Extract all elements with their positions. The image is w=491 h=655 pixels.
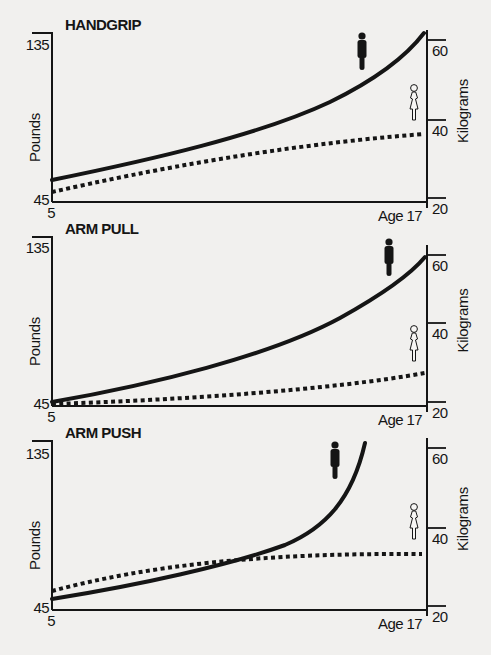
- right-tick-label: 20: [432, 404, 448, 421]
- male-series-line: [52, 257, 425, 402]
- female-figure-icon: [410, 326, 418, 361]
- x-end-label: Age 17: [378, 615, 422, 632]
- right-axis-title: Kilograms: [454, 289, 471, 353]
- x-start-label: 5: [47, 612, 55, 629]
- chart-panel-arm-pull: ARM PULL604020135455Age 17PoundsKilogram…: [26, 220, 471, 428]
- left-tick-label-top: 135: [26, 239, 49, 256]
- x-end-label: Age 17: [378, 207, 422, 224]
- right-tick-label: 60: [432, 450, 448, 467]
- female-series-line: [52, 134, 424, 192]
- female-figure-icon: [410, 504, 418, 539]
- strength-charts: HANDGRIP604020135455Age 17PoundsKilogram…: [0, 0, 491, 655]
- right-axis-title: Kilograms: [454, 487, 471, 551]
- panel-title: HANDGRIP: [65, 16, 141, 33]
- right-axis-title: Kilograms: [454, 79, 471, 143]
- male-series-line: [52, 443, 365, 599]
- left-tick-label-top: 135: [26, 36, 49, 53]
- x-end-label: Age 17: [378, 411, 422, 428]
- left-tick-label-top: 135: [26, 445, 49, 462]
- male-figure-icon: [385, 238, 394, 276]
- right-tick-label: 40: [432, 122, 448, 139]
- left-axis-title: Pounds: [26, 521, 43, 570]
- right-tick-label: 20: [432, 200, 448, 217]
- female-figure-icon: [410, 85, 418, 120]
- x-start-label: 5: [47, 204, 55, 221]
- male-figure-icon: [358, 32, 367, 70]
- right-tick-label: 40: [432, 325, 448, 342]
- female-series-line: [52, 373, 425, 404]
- chart-panel-arm-push: ARM PUSH604020135455Age 17PoundsKilogram…: [26, 424, 471, 632]
- panel-title: ARM PULL: [65, 220, 139, 237]
- male-figure-icon: [331, 441, 340, 479]
- right-tick-label: 40: [432, 530, 448, 547]
- chart-panel-handgrip: HANDGRIP604020135455Age 17PoundsKilogram…: [26, 16, 471, 224]
- x-start-label: 5: [47, 408, 55, 425]
- left-axis-title: Pounds: [26, 113, 43, 162]
- male-series-line: [52, 33, 424, 180]
- panel-title: ARM PUSH: [65, 424, 141, 441]
- left-axis-title: Pounds: [26, 317, 43, 366]
- right-tick-label: 20: [432, 608, 448, 625]
- right-tick-label: 60: [432, 42, 448, 59]
- right-tick-label: 60: [432, 257, 448, 274]
